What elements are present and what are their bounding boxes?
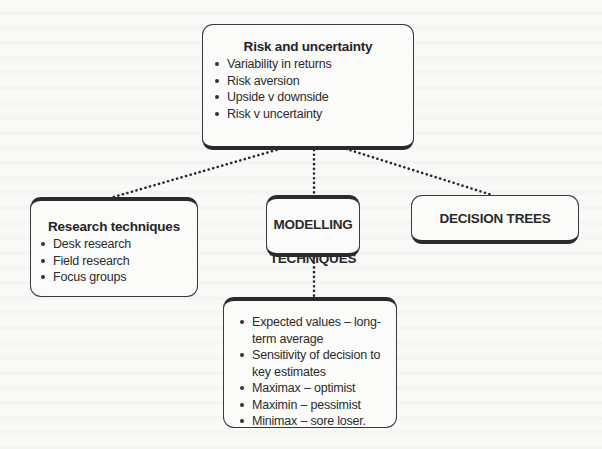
modelling-methods-bullet-list: Expected values – long-term average Sens…	[238, 314, 390, 430]
list-item: Focus groups	[39, 269, 197, 286]
list-item: Upside v downside	[213, 89, 413, 106]
risk-and-uncertainty-box: Risk and uncertainty Variability in retu…	[202, 24, 414, 150]
list-item: Maximin – pessimist	[238, 397, 390, 414]
list-item: Maximax – optimist	[238, 380, 390, 397]
research-bullet-list: Desk research Field research Focus group…	[39, 236, 197, 286]
list-item: Risk v uncertainty	[213, 106, 413, 123]
list-item: Risk aversion	[213, 73, 413, 90]
modelling-box-title-line2: TECHNIQUES	[267, 250, 359, 267]
list-item: Expected values – long-term average	[238, 314, 390, 347]
decision-trees-box: DECISION TREES	[411, 195, 579, 244]
modelling-box-title-line1: MODELLING	[267, 216, 359, 233]
connector-root-to-research	[110, 146, 290, 198]
list-item: Field research	[39, 253, 197, 270]
decision-box-title: DECISION TREES	[412, 210, 578, 227]
connector-root-to-decision	[337, 146, 492, 195]
modelling-techniques-box: MODELLING TECHNIQUES	[266, 195, 360, 257]
research-box-title: Research techniques	[31, 219, 197, 234]
risk-box-title: Risk and uncertainty	[203, 39, 413, 54]
list-item: Sensitivity of decision to key estimates	[238, 347, 390, 380]
list-item: Variability in returns	[213, 56, 413, 73]
research-techniques-box: Research techniques Desk research Field …	[30, 197, 198, 297]
list-item: Desk research	[39, 236, 197, 253]
list-item: Minimax – sore loser.	[238, 413, 390, 430]
modelling-methods-box: Expected values – long-term average Sens…	[223, 297, 397, 428]
risk-bullet-list: Variability in returns Risk aversion Ups…	[213, 56, 413, 122]
